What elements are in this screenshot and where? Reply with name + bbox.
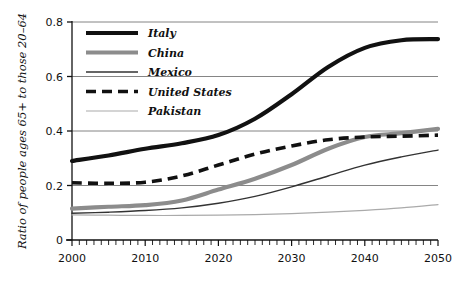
y-axis-title: Ratio of people ages 65+ to those 20–64: [15, 13, 29, 250]
y-tick-label: 0.8: [46, 16, 64, 29]
ratio-of-old-to-working-age-line-chart: 00.20.40.60.8200020102020203020402050Rat…: [0, 0, 462, 289]
x-tick-label: 2010: [131, 252, 159, 265]
x-tick-label: 2020: [204, 252, 232, 265]
series-line-italy: [72, 39, 438, 161]
y-tick-label: 0: [56, 234, 63, 247]
x-tick-label: 2030: [278, 252, 306, 265]
y-tick-label: 0.2: [46, 180, 64, 193]
legend-label-italy: Italy: [147, 27, 178, 40]
legend-label-china: China: [148, 47, 184, 60]
chart-canvas: 00.20.40.60.8200020102020203020402050Rat…: [0, 0, 462, 289]
y-tick-label: 0.6: [46, 71, 64, 84]
x-tick-label: 2000: [58, 252, 86, 265]
legend-label-pakistan: Pakistan: [147, 105, 201, 118]
legend-label-mexico: Mexico: [147, 66, 192, 79]
legend-label-united-states: United States: [148, 86, 232, 99]
series-line-united-states: [72, 135, 438, 183]
y-tick-label: 0.4: [46, 125, 64, 138]
x-tick-label: 2050: [424, 252, 452, 265]
x-tick-label: 2040: [351, 252, 379, 265]
